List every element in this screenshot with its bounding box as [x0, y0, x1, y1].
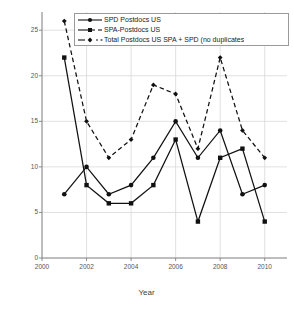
y-tick-label: 15 [16, 117, 38, 124]
legend-label-spa: SPA-Postdocs US [104, 25, 160, 35]
y-tick-label: 25 [16, 26, 38, 33]
y-tick-label: 10 [16, 163, 38, 170]
legend-item-spd: SPD Postdocs US [77, 15, 286, 25]
legend-key-spd-line [77, 15, 103, 25]
x-tick-label: 2004 [120, 263, 142, 270]
legend-key-spa-line [77, 25, 103, 35]
x-tick-label: 2010 [254, 263, 276, 270]
y-tick-label: 0 [16, 254, 38, 261]
legend-key-total-line [77, 35, 103, 45]
y-tick-label: 20 [16, 72, 38, 79]
x-tick-label: 2002 [76, 263, 98, 270]
chart-legend: SPD Postdocs US SPA-Postdocs US Total Po… [74, 13, 289, 46]
legend-item-spa: SPA-Postdocs US [77, 25, 286, 35]
legend-item-total: Total Postdocs US SPA + SPD (no duplicat… [77, 35, 286, 45]
x-tick-label: 2008 [209, 263, 231, 270]
y-tick-label: 5 [16, 208, 38, 215]
x-tick-label: 2006 [165, 263, 187, 270]
legend-label-total: Total Postdocs US SPA + SPD (no duplicat… [104, 35, 244, 45]
x-axis-title: Year [0, 288, 293, 297]
x-tick-label: 2000 [31, 263, 53, 270]
legend-label-spd: SPD Postdocs US [104, 15, 161, 25]
chart-container: 0510152025 200020022004200620082010 Year… [0, 0, 293, 309]
